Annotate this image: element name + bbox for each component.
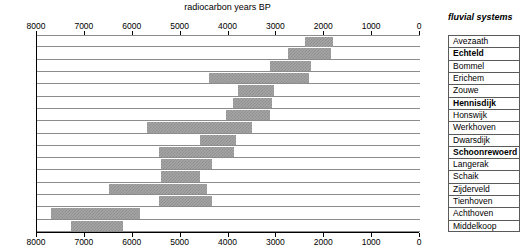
x-tick-label: 0: [417, 237, 422, 247]
range-bar: [226, 110, 270, 120]
chart-row: [37, 72, 420, 84]
x-tick-label: 0: [417, 21, 422, 31]
chart-row: [37, 220, 420, 232]
chart-row: [37, 121, 420, 133]
chart-row: [37, 158, 420, 170]
category-label: Schoonrewoerd: [449, 147, 519, 159]
x-tick-label: 6000: [122, 21, 141, 31]
range-bar: [51, 208, 140, 218]
range-bar: [238, 85, 274, 95]
category-label: Achthoven: [449, 208, 519, 220]
category-label: Erichem: [449, 73, 519, 85]
range-bar: [288, 48, 331, 58]
range-bar: [159, 196, 212, 206]
chart-row: [37, 134, 420, 146]
chart-row: [37, 170, 420, 182]
range-bar: [147, 122, 252, 132]
category-label: Werkhoven: [449, 122, 519, 134]
range-bar: [209, 73, 309, 83]
category-label: Hennisdijk: [449, 98, 519, 110]
chart-row: [37, 35, 420, 47]
category-label: Tienhoven: [449, 196, 519, 208]
x-tick-label: 1000: [362, 21, 381, 31]
chart-row: [37, 60, 420, 72]
x-tick-label: 7000: [74, 21, 93, 31]
x-tick-label: 6000: [122, 237, 141, 247]
range-bar: [305, 37, 333, 47]
x-tick-label: 1000: [362, 237, 381, 247]
chart-row: [37, 97, 420, 109]
category-label: Middelkoop: [449, 221, 519, 233]
range-bar: [161, 159, 212, 169]
x-tick-label: 5000: [170, 237, 189, 247]
x-tick-label: 7000: [74, 237, 93, 247]
x-tick-label: 3000: [266, 237, 285, 247]
chart-row: [37, 109, 420, 121]
category-label: Schaik: [449, 171, 519, 183]
category-label: Zijderveld: [449, 184, 519, 196]
category-label-table: AvezaathEchteldBommelErichemZouweHennisd…: [448, 35, 520, 232]
x-tick-label: 2000: [314, 21, 333, 31]
x-tick-label: 4000: [218, 237, 237, 247]
chart-row: [37, 207, 420, 219]
range-bar: [161, 171, 199, 181]
category-label: Avezaath: [449, 36, 519, 48]
x-tick-label: 2000: [314, 237, 333, 247]
chart-container: radiocarbon years BP fluvial systems 800…: [0, 0, 523, 252]
range-bar: [159, 147, 234, 157]
x-axis-top: 800070006000500040003000200010000: [36, 22, 419, 36]
plot-area: [36, 35, 419, 232]
fluvial-systems-title: fluvial systems: [448, 12, 513, 22]
chart-title: radiocarbon years BP: [36, 2, 419, 12]
category-label: Dwarsdijk: [449, 135, 519, 147]
range-bar: [233, 98, 271, 108]
chart-row: [37, 84, 420, 96]
chart-row: [37, 195, 420, 207]
x-tick-label: 8000: [27, 21, 46, 31]
x-tick-label: 4000: [218, 21, 237, 31]
range-bar: [270, 61, 311, 71]
range-bar: [71, 221, 124, 231]
chart-row: [37, 47, 420, 59]
x-axis-bottom: 800070006000500040003000200010000: [36, 232, 419, 246]
x-tick-label: 3000: [266, 21, 285, 31]
category-label: Honswijk: [449, 110, 519, 122]
chart-row: [37, 183, 420, 195]
x-tick-label: 8000: [27, 237, 46, 247]
category-label: Zouwe: [449, 85, 519, 97]
category-label: Echteld: [449, 48, 519, 60]
category-label: Langerak: [449, 159, 519, 171]
chart-row: [37, 146, 420, 158]
category-label: Bommel: [449, 61, 519, 73]
x-tick-label: 5000: [170, 21, 189, 31]
range-bar: [200, 135, 236, 145]
range-bar: [109, 184, 207, 194]
